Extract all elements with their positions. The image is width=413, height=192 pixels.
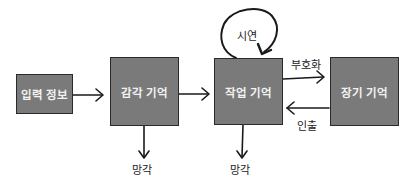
memory-model-diagram: 입력 정보 감각 기억 작업 기억 장기 기억 시연 부호화 인출 망각 망각 [0,0,413,192]
arrow-encoding [283,71,324,83]
node-long-term-memory: 장기 기억 [330,57,399,126]
arrow-working-forget [237,125,247,158]
arrow-sensory-to-working [179,88,209,100]
arrow-retrieval [287,102,329,114]
arrow-sensory-forget [139,126,149,158]
node-label: 장기 기억 [341,84,388,100]
node-label: 작업 기억 [225,84,272,100]
node-input-info: 입력 정보 [16,74,73,114]
node-label: 감각 기억 [121,84,168,100]
node-working-memory: 작업 기억 [214,58,283,125]
arrow-input-to-sensory [73,89,103,101]
forget-label-sensory: 망각 [132,161,152,177]
node-label: 입력 정보 [21,86,68,102]
rehearsal-label: 시연 [237,27,257,43]
encoding-label: 부호화 [291,56,321,72]
forget-label-working: 망각 [230,161,250,177]
node-sensory-memory: 감각 기억 [110,57,179,126]
retrieval-label: 인출 [297,117,317,133]
